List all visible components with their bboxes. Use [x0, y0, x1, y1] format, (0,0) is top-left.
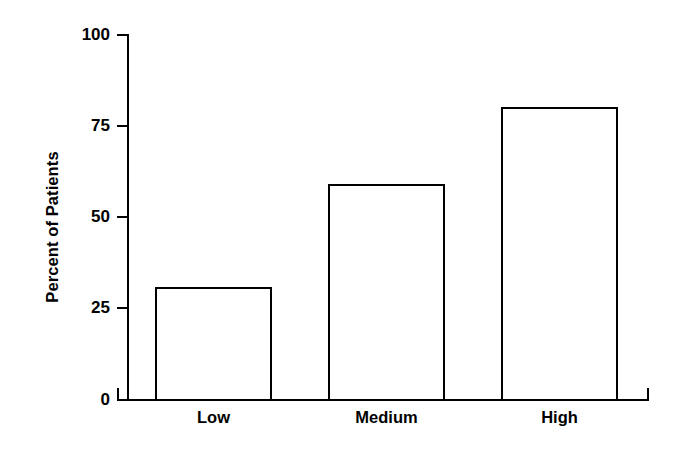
x-tick-mark-axis-end [647, 388, 649, 400]
y-tick-label-75: 75 [0, 117, 110, 134]
y-tick-label-50: 50 [0, 208, 110, 225]
y-axis-title: Percent of Patients [34, 0, 70, 454]
y-tick-mark-75 [117, 125, 128, 127]
x-category-label-high: High [501, 408, 618, 426]
x-tick-mark-axis-start [117, 388, 119, 400]
x-category-label-medium: Medium [328, 408, 445, 426]
y-tick-label-100: 100 [0, 26, 110, 43]
bar-medium [328, 184, 445, 401]
bar-high [501, 107, 618, 401]
y-tick-label-0: 0 [0, 391, 110, 408]
y-tick-label-25: 25 [0, 299, 110, 316]
x-category-label-low: Low [155, 408, 272, 426]
bar-low [155, 287, 272, 401]
bar-chart: Percent of Patients 100 75 50 25 0 Low M… [0, 0, 679, 454]
y-tick-mark-25 [117, 307, 128, 309]
y-tick-mark-100 [117, 34, 128, 36]
y-tick-mark-50 [117, 216, 128, 218]
